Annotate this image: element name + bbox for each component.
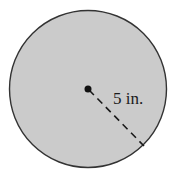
radius-label: 5 in. <box>113 90 143 107</box>
circle-diagram: 5 in. <box>0 0 169 176</box>
circle-figure <box>0 0 169 176</box>
center-point <box>85 86 92 93</box>
